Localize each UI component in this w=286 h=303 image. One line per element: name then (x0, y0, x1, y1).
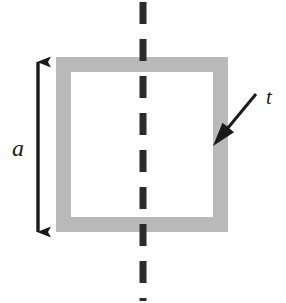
wall-thickness-label: t (266, 85, 273, 109)
side-length-label: a (12, 135, 24, 161)
cross-section-figure: a t (0, 0, 286, 303)
diagram-canvas: a t (0, 0, 286, 303)
